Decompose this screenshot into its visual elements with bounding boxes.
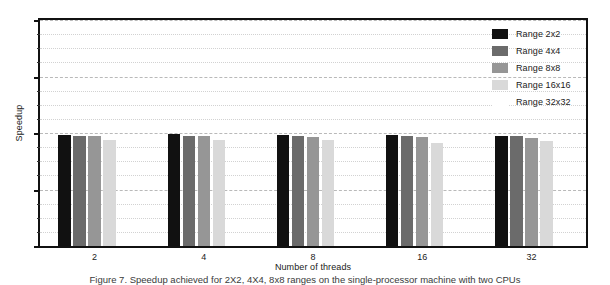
- legend-label: Range 16x16: [516, 80, 571, 90]
- legend-swatch-icon: [492, 46, 508, 56]
- y-axis-tick-minor: [37, 232, 41, 233]
- bar: [58, 135, 71, 246]
- x-axis-label: Number of threads: [38, 262, 588, 272]
- y-axis-tick: [34, 77, 40, 79]
- y-axis-tick: [34, 133, 40, 135]
- bar: [73, 136, 86, 246]
- y-axis-tick-minor: [37, 175, 41, 176]
- y-axis-tick-minor: [37, 161, 41, 162]
- gridline-minor: [40, 119, 586, 120]
- x-axis-tick-label: 32: [511, 252, 551, 262]
- bar: [213, 140, 226, 246]
- legend-label: Range 4x4: [516, 46, 560, 56]
- legend-item: Range 4x4: [492, 42, 571, 59]
- y-axis-tick-minor: [37, 204, 41, 205]
- bar: [103, 140, 116, 246]
- x-axis-tick-label: 8: [293, 252, 333, 262]
- y-axis-tick-minor: [37, 62, 41, 63]
- legend-label: Range 32x32: [516, 97, 571, 107]
- gridline-major: [40, 20, 586, 21]
- legend-swatch-icon: [492, 29, 508, 39]
- bar: [525, 138, 538, 246]
- chart-legend: Range 2x2Range 4x4Range 8x8Range 16x16Ra…: [492, 25, 571, 110]
- bar: [292, 136, 305, 246]
- y-axis-tick: [34, 190, 40, 192]
- y-axis-tick-minor: [37, 218, 41, 219]
- gridline-major: [40, 133, 586, 134]
- legend-item: Range 32x32: [492, 93, 571, 110]
- legend-item: Range 16x16: [492, 76, 571, 93]
- y-axis-tick-minor: [37, 119, 41, 120]
- bar: [416, 137, 429, 246]
- y-axis-tick-minor: [37, 91, 41, 92]
- y-axis-tick-minor: [37, 48, 41, 49]
- legend-swatch-icon: [492, 97, 508, 107]
- y-axis-label: Speedup: [14, 83, 24, 163]
- legend-label: Range 2x2: [516, 29, 560, 39]
- bar: [495, 136, 508, 246]
- bar: [510, 136, 523, 246]
- bar: [401, 136, 414, 246]
- bar: [386, 135, 399, 246]
- legend-item: Range 8x8: [492, 59, 571, 76]
- y-axis-tick-minor: [37, 147, 41, 148]
- legend-item: Range 2x2: [492, 25, 571, 42]
- bar: [277, 135, 290, 246]
- legend-label: Range 8x8: [516, 63, 560, 73]
- y-axis-tick: [34, 246, 40, 248]
- bar: [168, 134, 181, 246]
- y-axis-tick-minor: [37, 105, 41, 106]
- y-axis-tick: [34, 20, 40, 22]
- bar: [322, 140, 335, 246]
- legend-swatch-icon: [492, 80, 508, 90]
- bar: [198, 136, 211, 246]
- legend-swatch-icon: [492, 63, 508, 73]
- x-axis-tick-label: 2: [75, 252, 115, 262]
- figure-caption: Figure 7. Speedup achieved for 2X2, 4X4,…: [0, 274, 610, 285]
- x-axis-tick-label: 4: [184, 252, 224, 262]
- y-axis-tick-minor: [37, 34, 41, 35]
- figure-speedup-chart: Speedup Number of threads Range 2x2Range…: [0, 0, 610, 285]
- bar: [183, 136, 196, 246]
- bar: [540, 141, 553, 246]
- bar: [88, 136, 101, 246]
- x-axis-tick-label: 16: [402, 252, 442, 262]
- bar: [431, 143, 444, 246]
- bar: [307, 137, 320, 246]
